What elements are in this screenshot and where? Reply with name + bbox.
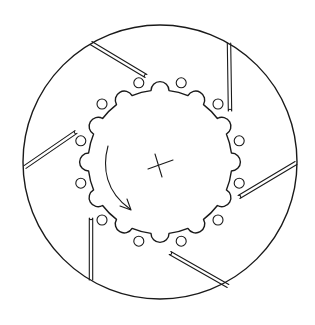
vent-hole: [97, 99, 107, 109]
scalloped-inner-edge: [80, 82, 241, 243]
center-cross-icon: [148, 154, 173, 177]
vent-hole: [234, 178, 244, 188]
vent-hole: [176, 78, 186, 88]
cooling-slot: [89, 218, 92, 280]
vent-hole: [76, 178, 86, 188]
outer-rim: [23, 25, 297, 299]
cooling-slot: [24, 131, 77, 169]
vent-hole: [134, 236, 144, 246]
vent-hole: [213, 99, 223, 109]
vent-holes: [76, 78, 244, 246]
cooling-slot: [169, 252, 229, 288]
vent-hole: [134, 78, 144, 88]
brake-disc-diagram: [0, 0, 315, 325]
cooling-slot: [90, 42, 147, 78]
vent-hole: [213, 215, 223, 225]
vent-hole: [234, 136, 244, 146]
disc-drawing: [0, 0, 315, 325]
cooling-slot: [227, 43, 231, 111]
vent-hole: [176, 236, 186, 246]
vent-hole: [97, 215, 107, 225]
vent-hole: [76, 136, 86, 146]
cooling-slot: [238, 162, 297, 199]
rotation-arrow-icon: [106, 146, 131, 210]
